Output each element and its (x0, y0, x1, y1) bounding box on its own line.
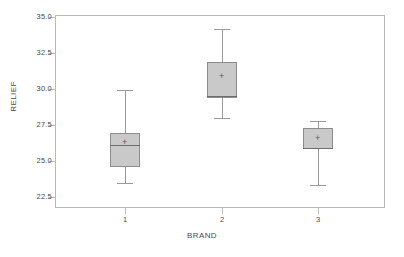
x-tick-mark (125, 208, 126, 214)
cap-lower (310, 185, 326, 186)
whisker-lower (125, 167, 126, 183)
y-tick-label: 22.5 (37, 192, 52, 201)
mean-marker: + (122, 138, 127, 147)
cap-lower (117, 183, 133, 184)
cap-upper (117, 90, 133, 91)
x-tick-label: 3 (303, 215, 333, 224)
whisker-upper (125, 90, 126, 132)
y-tick-label: 25.0 (37, 156, 52, 165)
x-tick-label: 1 (110, 215, 140, 224)
y-tick-label: 27.5 (37, 120, 52, 129)
x-axis-title: BRAND (0, 231, 404, 240)
y-tick-label: 35.0 (37, 12, 52, 21)
y-tick-label: 30.0 (37, 84, 52, 93)
cap-upper (310, 121, 326, 122)
whisker-lower (318, 149, 319, 185)
y-tick-label: 32.5 (37, 48, 52, 57)
cap-lower (214, 118, 230, 119)
x-tick-mark (318, 208, 319, 214)
x-tick-mark (222, 208, 223, 214)
mean-marker: + (315, 134, 320, 143)
median-line (303, 148, 333, 149)
median-line (207, 96, 237, 97)
whisker-lower (222, 98, 223, 118)
cap-upper (214, 29, 230, 30)
boxplot-figure: 35.032.530.027.525.022.5 123 +++ RELIEF … (0, 0, 404, 257)
whisker-upper (318, 121, 319, 128)
mean-marker: + (219, 72, 224, 81)
whisker-upper (222, 29, 223, 62)
y-axis-title: RELIEF (9, 62, 18, 132)
plot-area (55, 15, 385, 208)
x-tick-label: 2 (207, 215, 237, 224)
